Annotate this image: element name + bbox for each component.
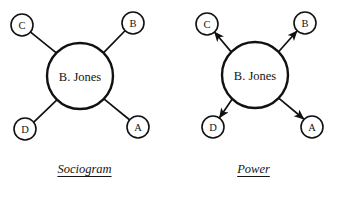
edge-jones-to-a — [104, 99, 130, 120]
edge-jones-to-d — [34, 100, 58, 123]
figure-root: B. Jones C B D A B. Jones C B — [0, 0, 338, 202]
node-label-d-sociogram: D — [21, 124, 29, 135]
caption-sociogram: Sociogram — [0, 162, 169, 177]
node-label-c-sociogram: C — [18, 20, 25, 31]
arrow-jones-to-b — [279, 31, 297, 52]
node-label-d-power: D — [209, 122, 217, 133]
node-label-b-sociogram: B — [129, 18, 136, 29]
node-label-a-sociogram: A — [134, 122, 142, 133]
hub-label-jones-sociogram: B. Jones — [59, 70, 102, 84]
node-label-a-power: A — [308, 122, 316, 133]
edge-jones-to-c — [31, 32, 57, 53]
panel-power: B. Jones C B D A — [196, 12, 323, 138]
node-label-b-power: B — [301, 18, 308, 29]
arrow-jones-to-c — [215, 32, 232, 52]
hub-label-jones-power: B. Jones — [234, 69, 277, 83]
edge-jones-to-b — [104, 31, 125, 52]
node-label-c-power: C — [203, 19, 210, 30]
panel-sociogram: B. Jones C B D A — [11, 12, 149, 140]
caption-power: Power — [169, 162, 338, 177]
arrow-jones-to-d — [220, 99, 233, 118]
arrow-jones-to-a — [279, 98, 304, 119]
